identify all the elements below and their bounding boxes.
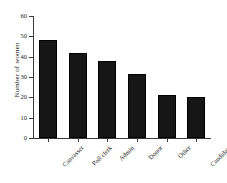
bar bbox=[98, 61, 116, 138]
y-axis-tick-label: 20 bbox=[21, 93, 28, 100]
y-axis-tick: 30 bbox=[29, 77, 33, 78]
y-axis-tick-label: 30 bbox=[21, 73, 28, 80]
y-axis-tick: 50 bbox=[29, 36, 33, 37]
x-axis-tick-label: Admin bbox=[117, 144, 135, 162]
x-axis-tick bbox=[107, 138, 108, 142]
x-axis-tick-label-text: Candidate bbox=[209, 144, 227, 168]
bar bbox=[158, 95, 176, 138]
x-axis-tick bbox=[78, 138, 79, 142]
x-axis-tick bbox=[48, 138, 49, 142]
y-axis-tick: 10 bbox=[29, 118, 33, 119]
y-axis-tick: 0 bbox=[29, 138, 33, 139]
y-axis-tick-label: 0 bbox=[24, 134, 27, 141]
y-axis-tick-label: 10 bbox=[21, 114, 28, 121]
x-axis-tick-label: Candidate bbox=[209, 144, 227, 168]
x-axis-tick-label: Other bbox=[176, 144, 191, 159]
x-axis-tick-label-text: Other bbox=[176, 144, 191, 159]
y-axis-tick-label: 50 bbox=[21, 32, 28, 39]
bar bbox=[128, 74, 146, 138]
y-axis-tick: 20 bbox=[29, 97, 33, 98]
x-axis-tick-label-text: Donor bbox=[147, 144, 164, 161]
y-axis-tick-label: 60 bbox=[21, 12, 28, 19]
y-axis-tick-label: 40 bbox=[21, 53, 28, 60]
bar bbox=[39, 40, 57, 138]
bar bbox=[69, 53, 87, 138]
x-axis-tick-label: Poll clerk bbox=[90, 144, 113, 167]
bar bbox=[187, 97, 205, 138]
y-axis-title: Number of women bbox=[13, 10, 21, 130]
chart-figure: Number of women 0102030405060 CanvasserP… bbox=[0, 0, 227, 183]
x-axis-line bbox=[33, 138, 211, 139]
x-axis-tick-label-text: Poll clerk bbox=[90, 144, 113, 167]
x-axis-tick bbox=[167, 138, 168, 142]
x-axis-tick-label: Donor bbox=[147, 144, 164, 161]
x-axis-tick-label: Canvasser bbox=[61, 144, 85, 168]
y-axis-tick: 60 bbox=[29, 16, 33, 17]
y-axis-tick: 40 bbox=[29, 57, 33, 58]
x-axis-tick bbox=[196, 138, 197, 142]
y-axis-line bbox=[33, 16, 34, 138]
x-axis-tick bbox=[137, 138, 138, 142]
x-axis-tick-label-text: Canvasser bbox=[61, 144, 85, 168]
x-axis-tick-label-text: Admin bbox=[117, 144, 135, 162]
plot-area: 0102030405060 CanvasserPoll clerkAdminDo… bbox=[33, 16, 211, 138]
